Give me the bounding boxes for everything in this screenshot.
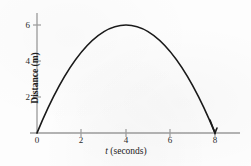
distance-curve [37, 25, 215, 133]
y-axis-title: Distance (m) [30, 52, 40, 103]
x-tick-label-8: 8 [213, 136, 218, 145]
x-axis-title: t (seconds) [105, 146, 146, 156]
y-tick-label-4: 4 [20, 57, 30, 66]
x-tick-label-2: 2 [79, 136, 84, 145]
x-tick-label-4: 4 [124, 136, 129, 145]
x-tick-label-6: 6 [168, 136, 173, 145]
x-axis-unit: (seconds) [110, 146, 146, 156]
x-tick-label-0: 0 [35, 136, 40, 145]
distance-time-figure: 0 2 4 6 8 6 4 2 t (seconds) Distance (m) [0, 0, 251, 166]
y-tick-label-6: 6 [20, 21, 30, 30]
y-tick-label-2: 2 [20, 93, 30, 102]
curve-endpoint-right [210, 120, 217, 133]
